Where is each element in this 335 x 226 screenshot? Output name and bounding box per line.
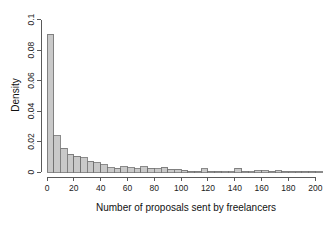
- histogram-bar: [288, 171, 295, 172]
- histogram-bar: [215, 171, 222, 172]
- histogram-bar: [309, 171, 316, 172]
- histogram-bars: [47, 34, 322, 172]
- histogram-bar: [168, 169, 175, 172]
- histogram-bar: [248, 172, 255, 173]
- histogram-bar: [255, 171, 262, 172]
- y-axis-title: Density: [10, 78, 21, 111]
- x-tick-label: 100: [174, 183, 188, 193]
- histogram-bar: [262, 171, 269, 172]
- x-tick-label: 140: [228, 183, 242, 193]
- histogram-bar: [74, 156, 81, 172]
- histogram-bar: [188, 171, 195, 172]
- histogram-bar: [181, 170, 188, 172]
- y-tick-label: 0: [26, 169, 36, 174]
- x-tick-label: 60: [123, 183, 133, 193]
- histogram-bar: [174, 169, 181, 172]
- x-tick-label: 120: [201, 183, 215, 193]
- x-tick-label: 0: [45, 183, 50, 193]
- histogram-bar: [161, 167, 168, 172]
- x-tick-label: 180: [281, 183, 295, 193]
- histogram-bar: [221, 172, 228, 173]
- y-tick-label: 0.06: [26, 72, 36, 89]
- y-axis-ticks: 00.020.040.060.080.1: [26, 13, 41, 174]
- histogram-bar: [47, 34, 54, 172]
- histogram-bar: [282, 171, 289, 172]
- histogram-bar: [154, 169, 161, 172]
- histogram-bar: [302, 171, 309, 172]
- x-tick-label: 20: [69, 183, 79, 193]
- histogram-bar: [228, 172, 235, 173]
- x-tick-label: 80: [150, 183, 160, 193]
- histogram-plot: 020406080100120140160180200 00.020.040.0…: [0, 0, 335, 226]
- x-tick-label: 200: [308, 183, 322, 193]
- histogram-bar: [107, 168, 114, 172]
- histogram-bar: [127, 168, 134, 172]
- histogram-bar: [81, 158, 88, 172]
- x-tick-label: 160: [255, 183, 269, 193]
- histogram-bar: [201, 169, 208, 172]
- plot-axes: [41, 20, 315, 177]
- histogram-bar: [315, 172, 322, 173]
- histogram-bar: [94, 163, 101, 172]
- histogram-bar: [148, 168, 155, 172]
- histogram-bar: [208, 171, 215, 172]
- y-tick-label: 0.02: [26, 133, 36, 150]
- histogram-bar: [54, 136, 61, 172]
- histogram-bar: [295, 171, 302, 172]
- histogram-bar: [141, 167, 148, 172]
- x-axis-title: Number of proposals sent by freelancers: [96, 202, 276, 213]
- histogram-figure: 020406080100120140160180200 00.020.040.0…: [0, 0, 335, 226]
- histogram-bar: [60, 148, 67, 172]
- histogram-bar: [114, 168, 121, 172]
- histogram-bar: [195, 171, 202, 172]
- histogram-bar: [235, 168, 242, 172]
- histogram-bar: [121, 167, 128, 172]
- x-axis-ticks: 020406080100120140160180200: [45, 177, 323, 193]
- histogram-bar: [134, 169, 141, 172]
- y-tick-label: 0.04: [26, 103, 36, 120]
- histogram-bar: [101, 165, 108, 172]
- y-tick-label: 0.08: [26, 42, 36, 59]
- x-tick-label: 40: [96, 183, 106, 193]
- histogram-bar: [87, 161, 94, 172]
- histogram-bar: [242, 171, 249, 172]
- y-tick-label: 0.1: [26, 13, 36, 25]
- histogram-bar: [67, 154, 74, 172]
- histogram-bar: [268, 171, 275, 172]
- histogram-bar: [275, 171, 282, 172]
